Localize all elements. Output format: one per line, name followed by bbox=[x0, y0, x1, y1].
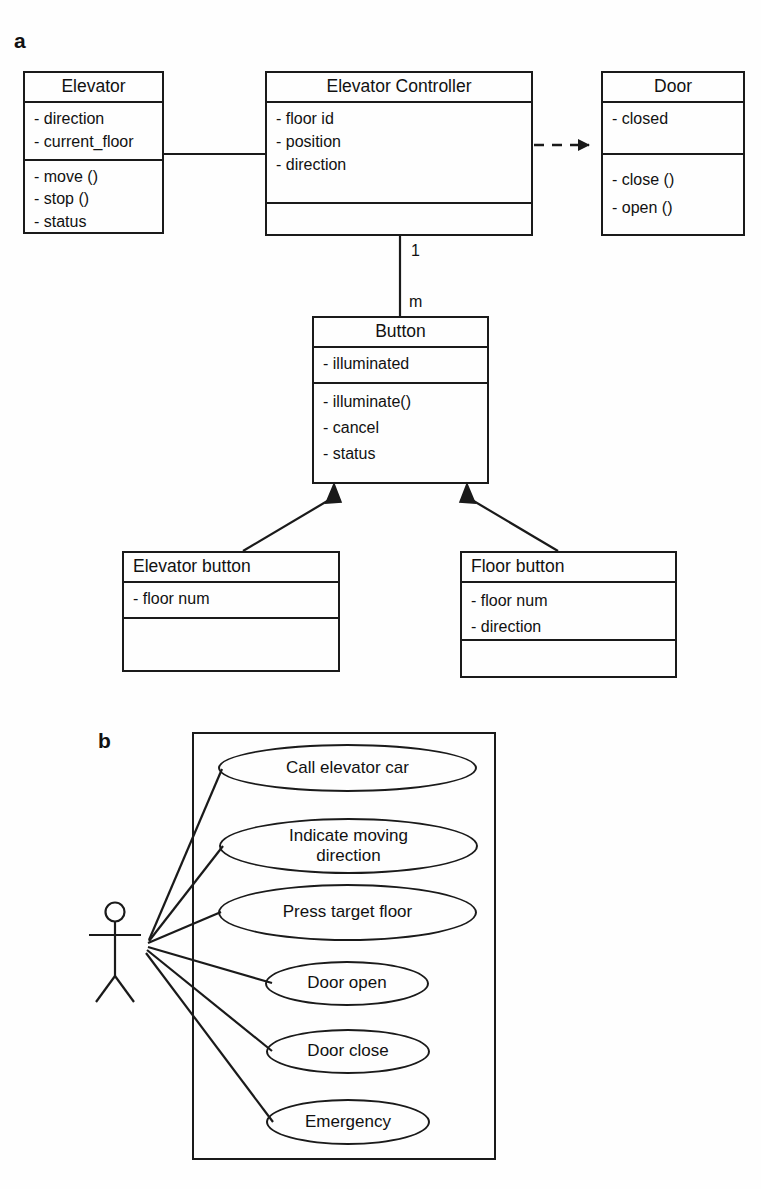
multiplicity-label-button-end: m bbox=[409, 294, 422, 310]
attribute-item: - closed bbox=[612, 108, 735, 131]
use-case-emergency[interactable]: Emergency bbox=[266, 1099, 430, 1145]
class-box-elevator-controller[interactable]: Elevator Controller - floor id - positio… bbox=[265, 71, 533, 236]
figure-canvas: a Elevator - direction - current_floor -… bbox=[0, 0, 761, 1189]
class-attributes-floor-button: - floor num - direction bbox=[462, 583, 675, 641]
generalization-arrowhead-floor-button bbox=[460, 484, 475, 503]
attribute-item: - illuminated bbox=[323, 353, 479, 376]
class-attributes-elevator: - direction - current_floor bbox=[25, 103, 162, 160]
use-case-press-target-floor[interactable]: Press target floor bbox=[218, 884, 477, 941]
use-case-label: Call elevator car bbox=[286, 758, 409, 778]
operation-item: - stop () bbox=[34, 188, 154, 211]
class-box-elevator-button[interactable]: Elevator button - floor num bbox=[122, 551, 340, 672]
class-box-button[interactable]: Button - illuminated - illuminate() - ca… bbox=[312, 316, 489, 484]
operation-item: - close () bbox=[612, 166, 735, 194]
operation-item: - move () bbox=[34, 166, 154, 189]
class-operations-floor-button bbox=[462, 641, 675, 676]
class-operations-door: - close () - open () bbox=[603, 155, 743, 234]
class-attributes-door: - closed bbox=[603, 103, 743, 155]
actor-user-icon[interactable] bbox=[89, 903, 141, 1003]
attribute-item: - direction bbox=[34, 108, 154, 131]
attribute-item: - current_floor bbox=[34, 131, 154, 154]
operation-item: - status bbox=[323, 441, 479, 467]
use-case-label: Door open bbox=[307, 973, 386, 993]
use-case-door-close[interactable]: Door close bbox=[266, 1029, 430, 1074]
class-operations-elevator: - move () - stop () - status bbox=[25, 161, 162, 239]
use-case-label: Emergency bbox=[305, 1112, 391, 1132]
use-case-label: Indicate moving direction bbox=[266, 826, 431, 867]
class-name-elevator-controller: Elevator Controller bbox=[267, 73, 531, 103]
panel-label-a: a bbox=[14, 30, 26, 51]
generalization-arrowhead-elevator-button bbox=[326, 484, 341, 503]
attribute-item: - floor num bbox=[133, 588, 330, 611]
class-operations-elevator-controller bbox=[267, 204, 531, 234]
attribute-item: - direction bbox=[471, 614, 667, 640]
class-name-floor-button: Floor button bbox=[462, 553, 675, 583]
system-boundary-box bbox=[192, 732, 496, 1160]
attribute-item: - floor num bbox=[471, 588, 667, 614]
class-name-elevator: Elevator bbox=[25, 73, 162, 103]
class-attributes-elevator-button: - floor num bbox=[124, 583, 338, 619]
operation-item: - status bbox=[34, 211, 154, 234]
multiplicity-label-controller-end: 1 bbox=[411, 243, 420, 259]
class-box-floor-button[interactable]: Floor button - floor num - direction bbox=[460, 551, 677, 678]
panel-label-b: b bbox=[98, 730, 111, 751]
class-attributes-elevator-controller: - floor id - position - direction bbox=[267, 103, 531, 204]
attribute-item: - direction bbox=[276, 154, 523, 177]
operation-item: - open () bbox=[612, 194, 735, 222]
operation-item: - cancel bbox=[323, 415, 479, 441]
class-operations-button: - illuminate() - cancel - status bbox=[314, 384, 487, 482]
generalization-line-elevator-button bbox=[243, 500, 329, 551]
class-attributes-button: - illuminated bbox=[314, 348, 487, 384]
use-case-label: Press target floor bbox=[283, 902, 412, 922]
class-name-elevator-button: Elevator button bbox=[124, 553, 338, 583]
attribute-item: - floor id bbox=[276, 108, 523, 131]
attribute-item: - position bbox=[276, 131, 523, 154]
class-box-elevator[interactable]: Elevator - direction - current_floor - m… bbox=[23, 71, 164, 234]
operation-item: - illuminate() bbox=[323, 389, 479, 415]
class-operations-elevator-button bbox=[124, 619, 338, 670]
class-name-button: Button bbox=[314, 318, 487, 348]
use-case-door-open[interactable]: Door open bbox=[265, 961, 429, 1006]
class-name-door: Door bbox=[603, 73, 743, 103]
class-box-door[interactable]: Door - closed - close () - open () bbox=[601, 71, 745, 236]
use-case-indicate-moving-direction[interactable]: Indicate moving direction bbox=[219, 818, 478, 874]
use-case-call-elevator-car[interactable]: Call elevator car bbox=[218, 744, 477, 792]
generalization-line-floor-button bbox=[472, 500, 558, 551]
use-case-label: Door close bbox=[307, 1041, 388, 1061]
